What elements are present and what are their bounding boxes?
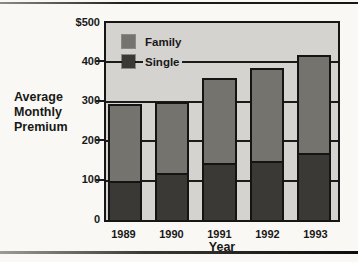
- x-axis-tick-labels: 19891990199119921993: [104, 228, 340, 240]
- bar-1993: [297, 55, 331, 220]
- bar-1990: [155, 102, 189, 220]
- x-tick-label-1989: 1989: [106, 228, 141, 240]
- bar-segment-single: [299, 153, 329, 220]
- bar-segment-single: [252, 161, 282, 220]
- y-tick-label-300: 300: [0, 93, 100, 108]
- y-tick-label-100: 100: [0, 172, 100, 187]
- legend-row-family: Family: [122, 35, 183, 48]
- y-tick-label-500: $500: [0, 15, 100, 30]
- y-tick-mark-200: [96, 139, 104, 141]
- bar-segment-family: [110, 106, 140, 181]
- bar-segment-family: [252, 70, 282, 161]
- x-tick-label-1993: 1993: [298, 228, 333, 240]
- y-tick-mark-300: [96, 100, 104, 102]
- y-tick-label-200: 200: [0, 133, 100, 148]
- page-top-rule: [0, 2, 358, 4]
- legend-swatch-single: [122, 55, 135, 68]
- bar-segment-family: [299, 57, 329, 154]
- legend: FamilySingle: [122, 35, 183, 68]
- y-tick-label-0: 0: [0, 212, 100, 227]
- x-axis-title: Year: [104, 240, 340, 254]
- legend-row-single: Single: [122, 55, 183, 68]
- bar-1992: [250, 68, 284, 220]
- x-tick-label-1992: 1992: [250, 228, 285, 240]
- x-tick-label-1990: 1990: [154, 228, 189, 240]
- bar-segment-single: [157, 173, 187, 220]
- y-tick-label-400: 400: [0, 54, 100, 69]
- legend-label: Single: [143, 56, 182, 68]
- bar-segment-single: [110, 181, 140, 220]
- bar-segment-single: [204, 163, 234, 220]
- bar-1989: [108, 104, 142, 220]
- bar-1991: [202, 78, 236, 220]
- plot-area: FamilySingle: [104, 21, 340, 222]
- x-tick-label-1991: 1991: [202, 228, 237, 240]
- legend-swatch-family: [122, 35, 135, 48]
- y-tick-mark-100: [96, 179, 104, 181]
- bar-segment-family: [204, 80, 234, 163]
- legend-label: Family: [143, 36, 183, 48]
- y-tick-mark-400: [96, 60, 104, 62]
- bar-segment-family: [157, 104, 187, 173]
